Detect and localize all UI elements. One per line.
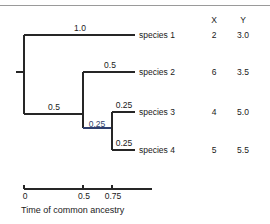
cell-y-species-2: 3.5	[237, 68, 249, 77]
branch-length-label-species-1: 1.0	[74, 24, 86, 33]
column-header-x: X	[211, 16, 217, 25]
branch-length-label-species-2: 0.5	[104, 61, 116, 70]
tip-label-species-4: species 4	[139, 146, 175, 155]
branch-length-label-clade-34: 0.25	[89, 120, 106, 129]
cell-x-species-4: 5	[212, 146, 217, 155]
tip-label-species-1: species 1	[139, 31, 175, 40]
axis-tick-label-0-75: 0.75	[105, 192, 122, 201]
cell-x-species-1: 2	[212, 31, 217, 40]
tip-label-species-3: species 3	[139, 108, 175, 117]
axis-caption: Time of common ancestry	[21, 206, 124, 215]
branch-length-label-species-3: 0.25	[116, 101, 133, 110]
tree-drawing	[0, 0, 270, 224]
cell-x-species-3: 4	[212, 108, 217, 117]
axis-tick-label-0-5: 0.5	[78, 192, 90, 201]
phylogenetic-tree-figure: 1.0 0.5 0.5 0.25 0.25 0.25 species 1 spe…	[0, 0, 270, 224]
column-header-y: Y	[240, 16, 246, 25]
cell-y-species-3: 5.0	[237, 108, 249, 117]
cell-y-species-1: 3.0	[237, 31, 249, 40]
branch-length-label-clade-234: 0.5	[48, 103, 60, 112]
cell-y-species-4: 5.5	[237, 146, 249, 155]
branch-length-label-species-4: 0.25	[116, 139, 133, 148]
cell-x-species-2: 6	[212, 68, 217, 77]
tip-label-species-2: species 2	[139, 68, 175, 77]
axis-tick-label-0: 0	[23, 192, 28, 201]
